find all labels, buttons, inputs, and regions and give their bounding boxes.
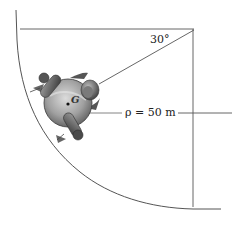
center-of-mass-label: G [71,95,80,105]
radius-label: ρ = 50 m [123,107,178,118]
radius-line [99,30,194,84]
diagram-canvas [0,0,238,228]
ride-vehicle [30,73,100,143]
angle-label: 30° [150,34,170,45]
center-of-mass-dot [66,102,69,105]
diagram-figure: 30° ρ = 50 m G [0,0,238,228]
